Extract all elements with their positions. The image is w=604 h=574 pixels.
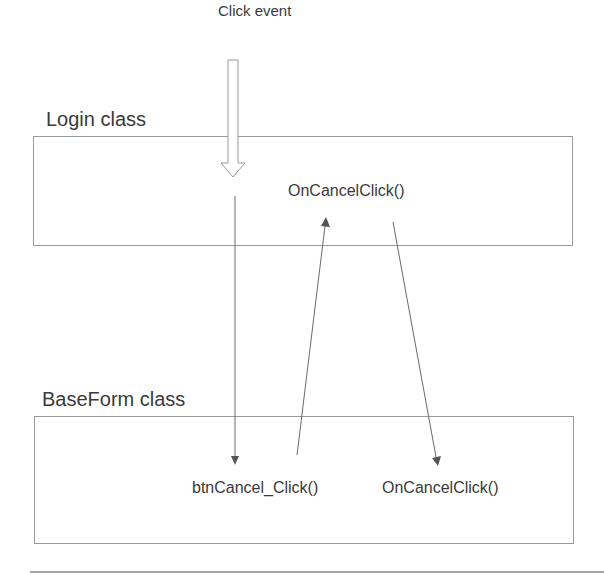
flow-arrows — [0, 0, 604, 574]
arrowhead-down-icon — [231, 456, 239, 465]
arrowhead-down-right-icon — [432, 456, 441, 466]
arrowhead-up-icon — [321, 217, 330, 227]
click-event-hollow-arrow-icon — [221, 60, 245, 177]
